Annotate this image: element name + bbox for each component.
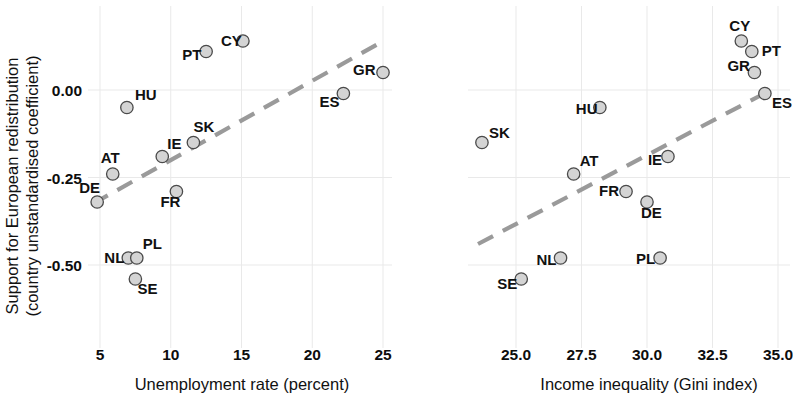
data-point[interactable]: HU: [576, 100, 606, 117]
x-tick-label-3: 20: [304, 346, 321, 363]
point-label-IE: IE: [167, 135, 181, 152]
point-label-PL: PL: [143, 235, 162, 252]
marker-FR[interactable]: [620, 185, 632, 197]
marker-GR[interactable]: [377, 66, 389, 78]
point-label-AT: AT: [101, 149, 120, 166]
marker-SK[interactable]: [187, 136, 199, 148]
point-label-DE: DE: [79, 179, 100, 196]
y-tick-label-1: -0.25: [47, 170, 83, 187]
marker-GR[interactable]: [748, 66, 760, 78]
point-label-CY: CY: [221, 32, 242, 49]
x-tick-label-2: 30.0: [632, 346, 662, 363]
point-label-CY: CY: [729, 17, 750, 34]
data-point[interactable]: PL: [636, 250, 666, 267]
point-label-NL: NL: [104, 249, 124, 266]
marker-DE[interactable]: [91, 196, 103, 208]
y-axis-title-line1: Support for European redistribution: [3, 58, 21, 315]
y-tick-label-0: 0.00: [52, 82, 82, 99]
marker-CY[interactable]: [735, 35, 747, 47]
point-label-FR: FR: [160, 193, 180, 210]
point-label-SK: SK: [193, 118, 214, 135]
x-tick-label-4: 25: [374, 346, 392, 363]
x-tick-label-1: 27.5: [566, 346, 597, 363]
figure-background: [0, 0, 793, 404]
marker-AT[interactable]: [107, 168, 119, 180]
y-tick-label-2: -0.50: [47, 257, 82, 274]
point-label-PL: PL: [636, 250, 655, 267]
point-label-GR: GR: [727, 57, 750, 74]
marker-PL[interactable]: [131, 252, 143, 264]
marker-IE[interactable]: [156, 150, 168, 162]
point-label-AT: AT: [580, 152, 599, 169]
x-tick-label-2: 15: [233, 346, 251, 363]
point-label-DE: DE: [641, 204, 662, 221]
data-point[interactable]: CY: [221, 32, 249, 49]
point-label-HU: HU: [576, 100, 598, 117]
x-axis-title: Unemployment rate (percent): [135, 375, 350, 393]
point-label-HU: HU: [135, 86, 157, 103]
point-label-IE: IE: [648, 151, 662, 168]
point-label-ES: ES: [319, 93, 339, 110]
point-label-GR: GR: [353, 61, 376, 78]
marker-IE[interactable]: [662, 150, 674, 162]
point-label-SE: SE: [137, 280, 157, 297]
point-label-SE: SE: [497, 275, 517, 292]
point-label-NL: NL: [537, 251, 557, 268]
marker-HU[interactable]: [121, 101, 133, 113]
marker-AT[interactable]: [567, 168, 579, 180]
marker-PL[interactable]: [654, 252, 666, 264]
point-label-SK: SK: [489, 124, 510, 141]
scatter-figure: Support for European redistribution (cou…: [0, 0, 793, 404]
marker-ES[interactable]: [759, 87, 771, 99]
marker-SK[interactable]: [476, 136, 488, 148]
point-label-PT: PT: [182, 46, 201, 63]
figure-canvas: Support for European redistribution (cou…: [0, 0, 793, 404]
marker-PT[interactable]: [200, 45, 212, 57]
x-axis-title: Income inequality (Gini index): [540, 375, 757, 393]
x-tick-label-0: 5: [96, 346, 105, 363]
x-tick-label-0: 25.0: [501, 346, 531, 363]
x-tick-label-3: 32.5: [697, 346, 728, 363]
point-label-ES: ES: [772, 94, 792, 111]
point-label-FR: FR: [599, 182, 619, 199]
x-tick-label-4: 35.0: [763, 346, 793, 363]
x-tick-label-1: 10: [162, 346, 179, 363]
point-label-PT: PT: [762, 42, 781, 59]
y-axis-title-line2: (country unstandardised coefficient): [23, 55, 41, 316]
